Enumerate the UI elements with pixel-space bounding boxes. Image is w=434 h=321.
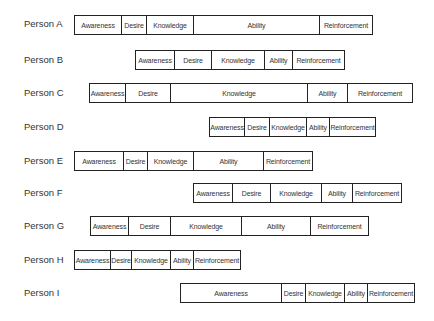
stage-segment-reinforcement: Reinforcement xyxy=(293,51,344,69)
stage-segment-knowledge: Knowledge xyxy=(171,217,242,235)
stage-segment-desire: Desire xyxy=(129,217,171,235)
stage-segment-ability: Ability xyxy=(265,51,293,69)
stage-bar: AwarenessDesireKnowledgeAbilityReinforce… xyxy=(74,250,241,270)
stage-bar: AwarenessDesireKnowledgeAbilityReinforce… xyxy=(90,216,369,236)
stage-bar: AwarenessDesireKnowledgeAbilityReinforce… xyxy=(74,15,373,35)
stage-segment-reinforcement: Reinforcement xyxy=(330,118,375,136)
stage-segment-awareness: Awareness xyxy=(181,284,282,302)
stage-segment-ability: Ability xyxy=(308,84,348,102)
person-label: Person F xyxy=(24,187,63,199)
stage-segment-awareness: Awareness xyxy=(136,51,175,69)
person-label: Person H xyxy=(24,254,64,266)
person-label: Person B xyxy=(24,54,63,66)
stage-bar: AwarenessDesireKnowledgeAbilityReinforce… xyxy=(89,83,413,103)
stage-segment-reinforcement: Reinforcement xyxy=(194,251,240,269)
person-label: Person D xyxy=(24,121,64,133)
stage-segment-knowledge: Knowledge xyxy=(306,284,345,302)
stage-segment-ability: Ability xyxy=(194,152,264,170)
stage-segment-knowledge: Knowledge xyxy=(148,152,194,170)
stage-segment-desire: Desire xyxy=(111,251,132,269)
person-label: Person G xyxy=(24,220,64,232)
stage-bar: AwarenessDesireKnowledgeAbilityReinforce… xyxy=(209,117,376,137)
stage-segment-desire: Desire xyxy=(282,284,306,302)
stage-segment-ability: Ability xyxy=(242,217,311,235)
stage-segment-reinforcement: Reinforcement xyxy=(320,16,372,34)
stage-segment-knowledge: Knowledge xyxy=(147,16,194,34)
stage-segment-reinforcement: Reinforcement xyxy=(311,217,368,235)
stage-segment-awareness: Awareness xyxy=(75,251,111,269)
stage-bar: AwarenessDesireKnowledgeAbilityReinforce… xyxy=(180,283,415,303)
stage-bar: AwarenessDesireKnowledgeAbilityReinforce… xyxy=(193,183,402,203)
stage-segment-awareness: Awareness xyxy=(90,84,126,102)
stage-segment-awareness: Awareness xyxy=(91,217,129,235)
person-label: Person I xyxy=(24,287,59,299)
stage-segment-ability: Ability xyxy=(307,118,330,136)
stage-segment-reinforcement: Reinforcement xyxy=(264,152,312,170)
stage-segment-ability: Ability xyxy=(171,251,194,269)
stage-segment-desire: Desire xyxy=(122,16,147,34)
stage-segment-knowledge: Knowledge xyxy=(270,118,307,136)
stage-segment-knowledge: Knowledge xyxy=(171,84,308,102)
person-label: Person A xyxy=(24,18,63,30)
person-label: Person C xyxy=(24,87,64,99)
stage-segment-reinforcement: Reinforcement xyxy=(353,184,401,202)
stage-segment-ability: Ability xyxy=(345,284,368,302)
stage-segment-awareness: Awareness xyxy=(75,152,124,170)
stage-segment-desire: Desire xyxy=(126,84,171,102)
stage-segment-desire: Desire xyxy=(245,118,270,136)
stage-segment-desire: Desire xyxy=(175,51,212,69)
stage-segment-ability: Ability xyxy=(194,16,320,34)
person-label: Person E xyxy=(24,155,63,167)
stage-segment-desire: Desire xyxy=(233,184,271,202)
stage-segment-awareness: Awareness xyxy=(194,184,233,202)
stage-bar: AwarenessDesireKnowledgeAbilityReinforce… xyxy=(74,151,313,171)
stage-segment-ability: Ability xyxy=(322,184,353,202)
stage-segment-knowledge: Knowledge xyxy=(271,184,322,202)
stage-segment-reinforcement: Reinforcement xyxy=(348,84,412,102)
stage-segment-reinforcement: Reinforcement xyxy=(368,284,414,302)
stage-segment-desire: Desire xyxy=(124,152,148,170)
stage-segment-knowledge: Knowledge xyxy=(212,51,265,69)
adkar-timeline-diagram: Person AAwarenessDesireKnowledgeAbilityR… xyxy=(0,0,434,321)
stage-segment-knowledge: Knowledge xyxy=(132,251,171,269)
stage-segment-awareness: Awareness xyxy=(210,118,245,136)
stage-bar: AwarenessDesireKnowledgeAbilityReinforce… xyxy=(135,50,345,70)
stage-segment-awareness: Awareness xyxy=(75,16,122,34)
